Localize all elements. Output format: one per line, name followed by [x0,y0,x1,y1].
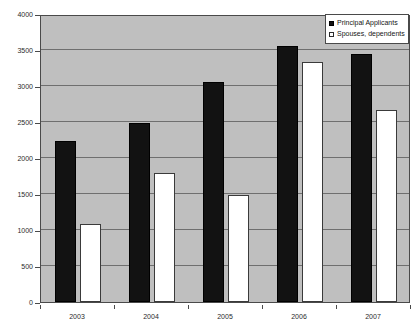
x-axis-tick-mark [114,305,115,309]
bar-chart: 05001000150020002500300035004000 2003200… [0,0,416,335]
x-axis-tick-mark [262,305,263,309]
x-axis-tick-mark [410,305,411,309]
y-axis-tick-label: 500 [21,263,33,271]
x-axis-tick-mark [40,305,41,309]
y-axis-tick-mark [35,303,40,304]
y-axis-tick-label: 1000 [17,227,33,235]
bar [154,173,175,302]
y-axis-tick-label: 3000 [17,83,33,91]
y-axis: 05001000150020002500300035004000 [0,0,40,335]
x-axis-tick-label: 2005 [217,313,233,320]
legend-swatch-icon [329,21,334,26]
x-axis: 20032004200520062007 [40,305,410,331]
bar [203,82,224,302]
bar [277,46,298,302]
bar [55,141,76,302]
bar [376,110,397,302]
plot-area [40,15,410,303]
bar [228,195,249,302]
legend-label: Spouses, dependents [337,29,405,39]
bar [302,62,323,302]
y-axis-tick-label: 1500 [17,191,33,199]
x-axis-tick-label: 2006 [291,313,307,320]
x-axis-tick-label: 2004 [143,313,159,320]
legend-label: Principal Applicants [337,18,398,28]
legend-item: Spouses, dependents [329,29,405,39]
legend-item: Principal Applicants [329,18,405,28]
bar [351,54,372,302]
bar [129,123,150,302]
x-axis-tick-label: 2003 [69,313,85,320]
y-axis-tick-label: 3500 [17,47,33,55]
y-axis-tick-label: 4000 [17,11,33,19]
y-axis-tick-label: 2000 [17,155,33,163]
x-axis-tick-label: 2007 [365,313,381,320]
bars-layer [41,16,409,302]
y-axis-tick-label: 2500 [17,119,33,127]
x-axis-tick-mark [188,305,189,309]
bar [80,224,101,302]
chart-legend: Principal Applicants Spouses, dependents [325,14,409,44]
y-axis-tick-label: 0 [29,299,33,307]
x-axis-tick-mark [336,305,337,309]
legend-swatch-icon [329,32,334,37]
